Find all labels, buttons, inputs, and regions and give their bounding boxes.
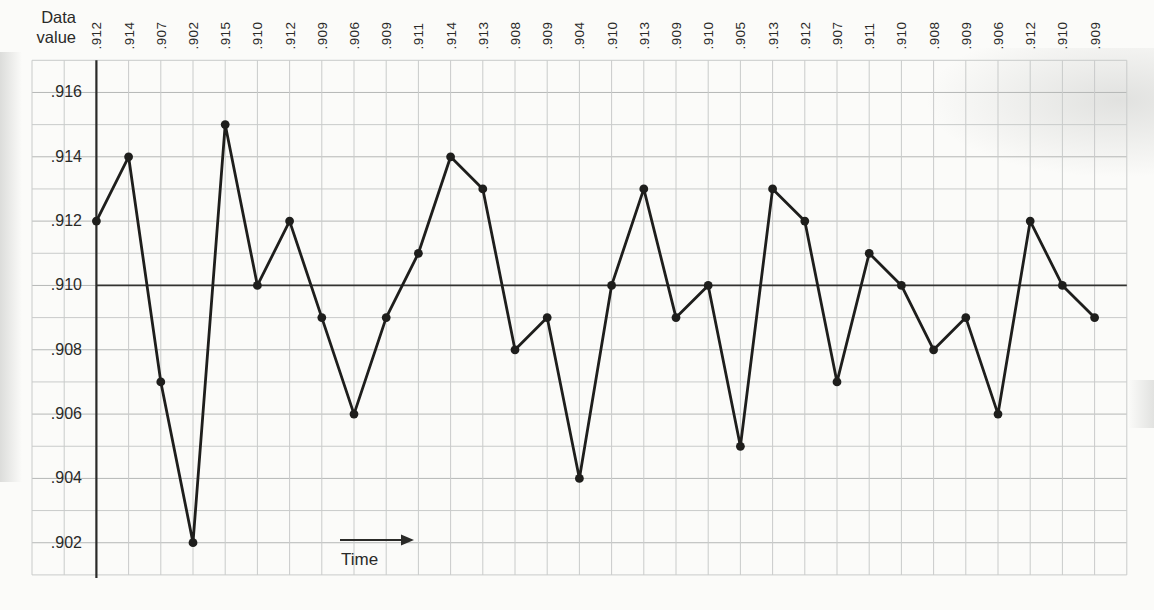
data-point <box>704 281 713 290</box>
top-value-label: .909 <box>541 4 554 50</box>
data-point <box>575 474 584 483</box>
data-point <box>994 410 1003 419</box>
y-tick-label: .914 <box>28 146 82 168</box>
data-point <box>317 313 326 322</box>
top-value-label: .914 <box>444 4 457 50</box>
top-value-label: .913 <box>637 4 650 50</box>
y-tick-label: .910 <box>28 274 82 296</box>
top-value-label: .909 <box>670 4 683 50</box>
time-arrow-head-icon <box>401 535 414 546</box>
y-tick-label: .916 <box>28 81 82 103</box>
top-value-label: .912 <box>90 4 103 50</box>
y-tick-label: .904 <box>28 467 82 489</box>
y-axis-title-line1: Data <box>12 7 76 27</box>
data-point <box>833 378 842 387</box>
y-tick-label: .906 <box>28 403 82 425</box>
top-value-label: .907 <box>154 4 167 50</box>
top-value-label: .908 <box>509 4 522 50</box>
top-value-label: .909 <box>315 4 328 50</box>
y-tick-label: .902 <box>28 532 82 554</box>
top-value-label: .906 <box>348 4 361 50</box>
top-value-label: .906 <box>992 4 1005 50</box>
top-value-label: .915 <box>219 4 232 50</box>
data-point <box>929 345 938 354</box>
data-point <box>511 345 520 354</box>
data-point <box>446 152 455 161</box>
top-value-label: .912 <box>1024 4 1037 50</box>
top-value-label: .910 <box>605 4 618 50</box>
data-point <box>800 217 809 226</box>
data-point <box>124 152 133 161</box>
data-point <box>478 185 487 194</box>
top-value-label: .910 <box>895 4 908 50</box>
top-value-label: .910 <box>1056 4 1069 50</box>
top-value-label: .905 <box>734 4 747 50</box>
top-value-label: .909 <box>380 4 393 50</box>
top-value-label: .913 <box>766 4 779 50</box>
data-line <box>96 125 1094 543</box>
data-point <box>543 313 552 322</box>
run-chart-figure: Data value .912.914.907.902.915.910.912.… <box>0 0 1154 610</box>
top-value-label: .911 <box>863 4 876 50</box>
data-point <box>253 281 262 290</box>
data-point <box>156 378 165 387</box>
data-point <box>897 281 906 290</box>
top-value-label: .911 <box>412 4 425 50</box>
data-point <box>639 185 648 194</box>
data-point <box>736 442 745 451</box>
data-point <box>865 249 874 258</box>
data-point <box>672 313 681 322</box>
data-point <box>1090 313 1099 322</box>
data-point <box>607 281 616 290</box>
data-point <box>382 313 391 322</box>
data-point <box>414 249 423 258</box>
top-value-label: .908 <box>927 4 940 50</box>
data-point <box>768 185 777 194</box>
top-value-label: .907 <box>831 4 844 50</box>
top-value-label: .910 <box>251 4 264 50</box>
time-label: Time <box>341 550 378 570</box>
y-axis-title-line2: value <box>12 27 76 47</box>
data-point <box>92 217 101 226</box>
data-point <box>221 120 230 129</box>
top-value-label: .914 <box>122 4 135 50</box>
y-tick-label: .912 <box>28 210 82 232</box>
y-axis-title: Data value <box>12 7 76 47</box>
top-value-label: .909 <box>959 4 972 50</box>
top-value-label: .910 <box>702 4 715 50</box>
run-chart-svg <box>0 0 1154 610</box>
data-point <box>961 313 970 322</box>
data-point <box>285 217 294 226</box>
data-point <box>350 410 359 419</box>
top-value-label: .912 <box>798 4 811 50</box>
data-point <box>1058 281 1067 290</box>
y-tick-label: .908 <box>28 339 82 361</box>
data-point <box>1026 217 1035 226</box>
top-value-label: .904 <box>573 4 586 50</box>
top-value-label: .909 <box>1088 4 1101 50</box>
top-value-label: .913 <box>476 4 489 50</box>
top-value-label: .902 <box>187 4 200 50</box>
data-point <box>189 538 198 547</box>
top-value-label: .912 <box>283 4 296 50</box>
